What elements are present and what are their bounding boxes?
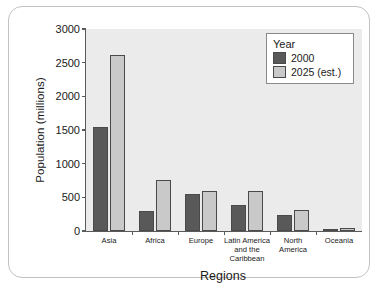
bar [340, 228, 356, 231]
bar-group [132, 29, 178, 231]
figure-frame: Regions Population (millions) 0500100015… [8, 6, 370, 278]
legend-swatch [273, 52, 286, 64]
legend-entry: 2025 (est.) [273, 66, 347, 78]
bar [294, 210, 310, 231]
x-axis-tick [316, 231, 317, 235]
y-axis-tick-text: 2500 [48, 57, 86, 69]
legend-label: 2025 (est.) [291, 66, 341, 78]
x-axis-tick [224, 231, 225, 235]
bar [248, 191, 264, 231]
x-axis-tick-label: Oceania [310, 236, 368, 245]
y-axis-tick-text: 2000 [48, 90, 86, 102]
legend-entries: 20002025 (est.) [273, 52, 347, 78]
legend-title: Year [273, 38, 347, 50]
bar-group [224, 29, 270, 231]
legend-entry: 2000 [273, 52, 347, 64]
x-axis-label-line: America [264, 245, 322, 254]
bar [202, 191, 218, 231]
bar [323, 229, 339, 231]
x-axis-tick [132, 231, 133, 235]
x-axis-title: Regions [85, 269, 361, 283]
legend: Year 20002025 (est.) [266, 33, 354, 84]
y-axis-tick-text: 3000 [48, 23, 86, 35]
bar [277, 215, 293, 231]
bar [139, 211, 155, 231]
bar [156, 180, 172, 231]
x-axis-tick [178, 231, 179, 235]
bar [110, 55, 126, 231]
legend-label: 2000 [291, 52, 314, 64]
bar [185, 194, 201, 231]
bar-group [178, 29, 224, 231]
legend-swatch [273, 66, 286, 78]
x-axis-label-line: Oceania [310, 236, 368, 245]
bar [93, 127, 109, 231]
y-axis-tick-text: 1500 [48, 124, 86, 136]
bar-group [86, 29, 132, 231]
y-axis-tick-text: 1000 [48, 158, 86, 170]
bar [231, 205, 247, 231]
x-axis-label-line: Caribbean [218, 254, 276, 263]
y-axis-tick-text: 500 [48, 191, 86, 203]
x-axis-tick [270, 231, 271, 235]
